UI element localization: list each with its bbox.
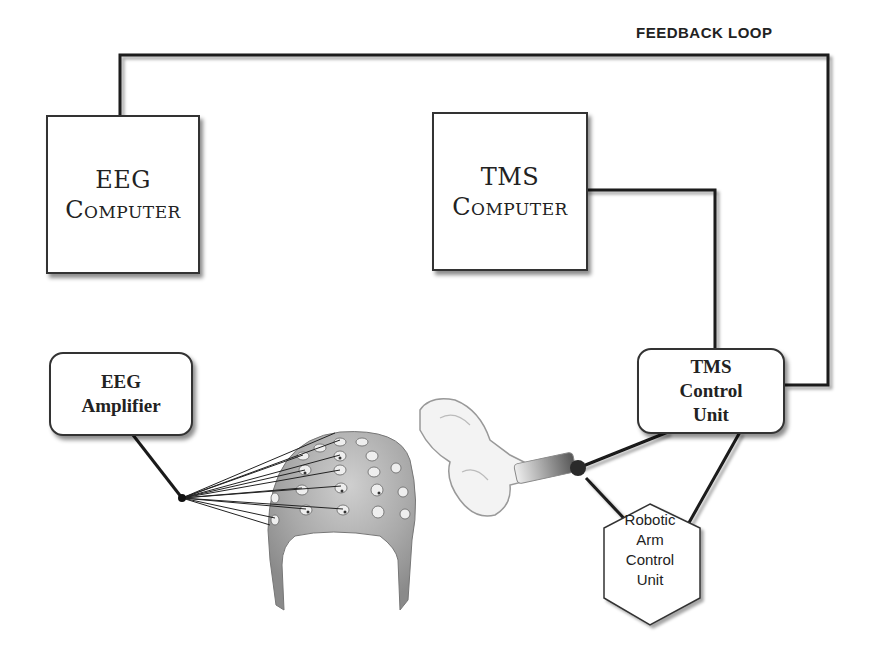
robotic-line4: Unit	[604, 570, 696, 590]
eeg-amplifier-box: EEG Amplifier	[49, 352, 193, 436]
eeg-amplifier-line2: Amplifier	[81, 394, 160, 418]
eeg-computer-box: EEG Computer	[46, 115, 200, 274]
tms-computer-line2: Computer	[452, 192, 568, 222]
connector-layer	[0, 0, 875, 654]
tms-computer-box: TMS Computer	[432, 112, 588, 271]
robotic-line1: Robotic	[604, 510, 696, 530]
tms-computer-line1: TMS	[481, 162, 540, 192]
tms-control-line1: TMS	[690, 355, 731, 379]
eeg-computer-line1: EEG	[95, 165, 151, 195]
feedback-loop-label: FEEDBACK LOOP	[636, 24, 773, 41]
tms-control-line2: Control	[680, 379, 743, 403]
electrode-hub	[178, 494, 186, 502]
tms-coil-image	[420, 399, 586, 516]
robotic-arm-control-unit-label: Robotic Arm Control Unit	[604, 510, 696, 590]
tms-control-line3: Unit	[693, 403, 729, 427]
tms-computer-to-control-connector	[585, 190, 715, 348]
tms-control-unit-box: TMS Control Unit	[637, 348, 785, 434]
amplifier-to-cap-connector	[133, 435, 182, 498]
eeg-cap-image	[178, 432, 416, 610]
diagram-canvas: FEEDBACK LOOP EEG Computer TMS Computer …	[0, 0, 875, 654]
eeg-computer-line2: Computer	[65, 195, 181, 225]
robotic-line2: Arm	[604, 530, 696, 550]
robotic-line3: Control	[604, 550, 696, 570]
eeg-amplifier-line1: EEG	[101, 370, 141, 394]
